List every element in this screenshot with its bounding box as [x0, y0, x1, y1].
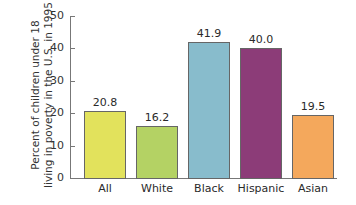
y-tick-mark — [70, 146, 75, 147]
bar-white — [136, 126, 178, 179]
x-category-label: Asian — [278, 182, 348, 195]
y-tick-mark — [70, 16, 75, 17]
y-tick-label: 0 — [44, 171, 64, 184]
y-axis-label-line-1: Percent of children under 18 — [29, 0, 42, 195]
bar-value-label: 41.9 — [179, 27, 239, 40]
y-tick-mark — [70, 178, 75, 179]
bar-black — [188, 42, 230, 179]
bar-all — [84, 111, 126, 179]
y-tick-label: 10 — [44, 139, 64, 152]
y-axis-label: Percent of children under 18 living in p… — [29, 0, 55, 195]
y-tick-mark — [70, 81, 75, 82]
y-axis-label-line-2: living in poverty in the U.S. in 1995 — [42, 0, 55, 195]
y-tick-label: 30 — [44, 74, 64, 87]
y-axis — [70, 16, 71, 179]
bar-asian — [292, 115, 334, 179]
y-tick-label: 40 — [44, 41, 64, 54]
bar-value-label: 19.5 — [283, 100, 343, 113]
bar-value-label: 20.8 — [75, 96, 135, 109]
y-tick-mark — [70, 113, 75, 114]
bar-value-label: 16.2 — [127, 111, 187, 124]
bar-chart: Percent of children under 18 living in p… — [0, 0, 356, 205]
y-tick-mark — [70, 48, 75, 49]
y-tick-label: 50 — [44, 9, 64, 22]
bar-value-label: 40.0 — [231, 33, 291, 46]
bar-hispanic — [240, 48, 282, 179]
y-tick-label: 20 — [44, 106, 64, 119]
